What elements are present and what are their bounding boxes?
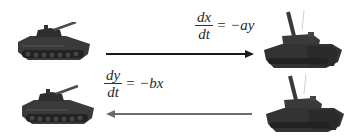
top-equation-fraction: dx dt (195, 10, 213, 41)
ifv-bottom-left-icon (20, 84, 98, 126)
top-arrow-right (106, 48, 256, 60)
ifv-top-left-icon (14, 22, 94, 64)
top-equation-numerator: dx (195, 10, 213, 24)
bottom-equation: dy dt = −bx (104, 68, 163, 99)
tank-bottom-right-icon (264, 74, 346, 134)
tank-top-right-icon (262, 10, 344, 70)
bottom-arrow-left (106, 108, 256, 120)
bottom-equation-rhs: = −bx (125, 76, 163, 91)
bottom-equation-numerator: dy (104, 68, 122, 82)
bottom-equation-denominator: dt (105, 85, 121, 99)
bottom-equation-fraction: dy dt (104, 68, 122, 99)
top-equation-rhs: = −ay (216, 18, 254, 33)
top-equation-denominator: dt (196, 27, 212, 41)
top-equation: dx dt = −ay (195, 10, 254, 41)
